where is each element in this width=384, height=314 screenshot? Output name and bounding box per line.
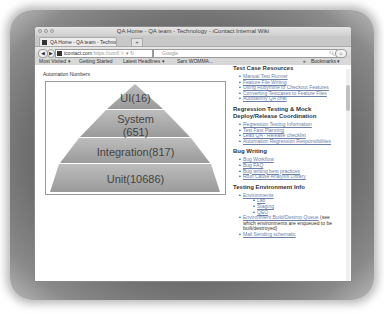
vertical-scrollbar[interactable] (346, 69, 350, 282)
section-heading-testing-env: Testing Environment Info (233, 184, 341, 191)
list-item: Mail Sending schematic (239, 232, 341, 238)
list-item: Automation Regression Responsibilities (239, 139, 341, 145)
section-heading-regression: Regression Testing & Mock Deploy/Release… (233, 106, 341, 120)
testing-env-list: Environments Lab Staging QEO Environment… (233, 193, 341, 238)
browser-window: QA Home - QA team - Technology - iContac… (34, 26, 352, 282)
close-window-button[interactable] (38, 29, 42, 33)
search-input[interactable]: Google 🔍︎ (153, 49, 338, 58)
section-heading-bug-writing: Bug Writing (233, 148, 341, 155)
new-tab-button[interactable]: + (131, 38, 143, 47)
automation-numbers-label: Automation Numbers (43, 71, 90, 77)
home-button[interactable]: ⌂ (335, 49, 347, 58)
pyramid-label-unit: Unit(10686) (46, 173, 225, 185)
scrollbar-thumb[interactable] (346, 85, 350, 111)
bookmarks-menu-button[interactable]: Bookmarks ▾ (311, 58, 340, 65)
sidebar: Test Case Resources Manual Test Runner F… (233, 65, 341, 241)
list-item: Root Cause Analysis Library (239, 174, 341, 180)
title-bar: QA Home - QA team - Technology - iContac… (35, 27, 351, 36)
list-item: Environment Build/Destroy Queue (see whi… (239, 215, 341, 232)
pyramid-label-integration: Integration(817) (46, 146, 225, 158)
tab-bar: QA Home - QA team - Technol... + (35, 36, 351, 47)
link-regression-responsibilities[interactable]: Automation Regression Responsibilities (243, 138, 331, 144)
pyramid-label-system-count: (651) (46, 126, 225, 138)
environments-sublist: Lab Staging QEO (253, 198, 341, 215)
link-qa-chat[interactable]: Autoskinny QA chat (243, 95, 287, 101)
bug-writing-list: Bug Workflow Bug FAQ Bug writing best pr… (233, 157, 341, 179)
bookmark-most-visited[interactable]: Most Visited ▾ (39, 58, 71, 65)
section-heading-test-case-resources: Test Case Resources (233, 65, 341, 72)
site-identity-icon (57, 51, 62, 56)
pyramid-label-system: System (46, 113, 225, 125)
url-path: https://confl (93, 50, 119, 56)
url-domain: icontact.com (64, 50, 92, 56)
test-case-resources-list: Manual Test Runner Feature File Writing … (233, 74, 341, 102)
link-root-cause-library[interactable]: Root Cause Analysis Library (243, 173, 306, 179)
bookmarks-overflow-chevron[interactable]: » (303, 58, 306, 65)
forward-button[interactable]: ▶ (47, 49, 55, 58)
bookmark-sars-womma[interactable]: Sars WOMMA... (177, 58, 213, 65)
url-input[interactable]: icontact.com https://confl ☆ ▾ ↻ (55, 49, 153, 58)
bookmark-latest-headlines[interactable]: Latest Headlines ▾ (123, 58, 165, 65)
link-mail-sending[interactable]: Mail Sending schematic (243, 231, 296, 237)
minimize-window-button[interactable] (44, 29, 48, 33)
test-pyramid-chart: UI(16) System (651) Integration(817) Uni… (45, 81, 226, 195)
bookmark-getting-started[interactable]: Getting Started (79, 58, 113, 65)
list-item: Environments Lab Staging QEO (239, 193, 341, 215)
tab-qa-home[interactable]: QA Home - QA team - Technol... (39, 37, 117, 46)
window-title: QA Home - QA team - Technology - iContac… (117, 28, 269, 34)
window-controls (38, 29, 54, 33)
favicon-icon (42, 40, 47, 45)
zoom-window-button[interactable] (50, 29, 54, 33)
navigation-bar: ◀ ▶ icontact.com https://confl ☆ ▾ ↻ Goo… (35, 47, 351, 58)
search-placeholder: Google (162, 50, 178, 56)
list-item: Autoskinny QA chat (239, 96, 341, 102)
regression-list: Regression Testing Information Test Fast… (233, 122, 341, 144)
page-content: Automation Numbers UI(16) System (651) I… (35, 65, 351, 281)
tab-label: QA Home - QA team - Technol... (50, 39, 117, 45)
pyramid-label-ui: UI(16) (46, 92, 225, 104)
